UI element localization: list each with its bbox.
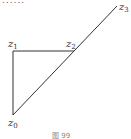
figure-caption: 图 99	[52, 130, 70, 139]
ray-z0-z3	[13, 6, 117, 115]
label-z2: z2	[65, 38, 76, 51]
label-z3: z3	[118, 1, 129, 14]
label-z0: z0	[7, 117, 18, 130]
label-z1: z1	[7, 38, 18, 51]
geometry-diagram: z0 z1 z2 z3	[0, 0, 131, 139]
